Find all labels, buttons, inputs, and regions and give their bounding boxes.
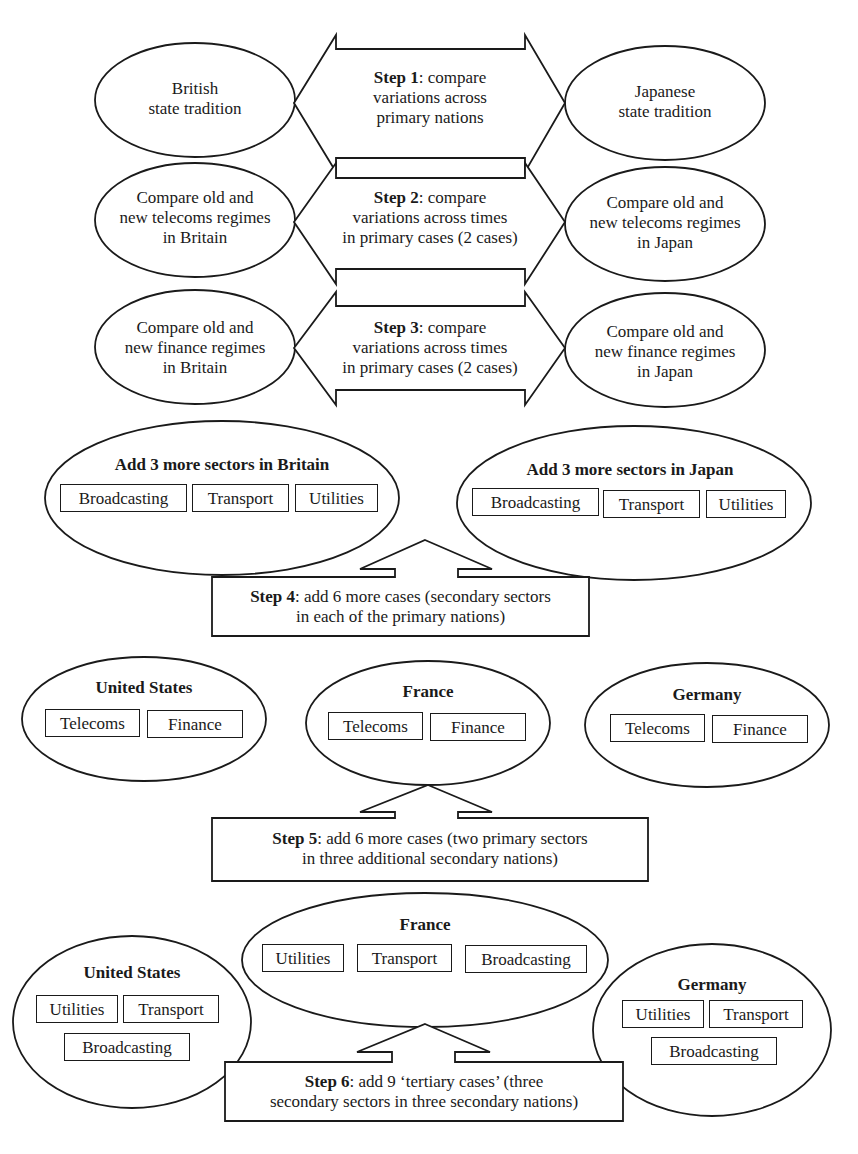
step-text: in each of the primary nations) [212,607,589,627]
label-line: Japanese [570,82,760,102]
step-text: in primary cases (2 cases) [315,228,545,248]
sector-box-us-transport: Transport [123,995,219,1023]
label-line: in Japan [565,362,765,382]
step-number: Step 3 [374,318,419,337]
britain-sectors-title: Add 3 more sectors in Britain [72,455,372,475]
step-number: Step 4 [250,587,295,606]
step-3-label: Step 3: compare variations across times … [315,318,545,378]
step-text: variations across [330,88,530,108]
step-text: : compare [419,68,487,87]
step-4-label: Step 4: add 6 more cases (secondary sect… [212,587,589,627]
sector-box-britain-utilities: Utilities [295,484,378,512]
sector-box-japan-broadcasting: Broadcasting [472,488,599,516]
telecoms-japan-label: Compare old and new telecoms regimes in … [565,193,765,253]
label-line: new telecoms regimes [565,213,765,233]
step-text: : add 6 more cases (two primary sectors [317,829,588,848]
step-text: : compare [419,188,487,207]
label-line: new finance regimes [95,338,295,358]
sector-box-france-utilities: Utilities [262,944,344,972]
germany-primary-title: Germany [607,685,807,705]
label-line: Compare old and [95,318,295,338]
label-line: state tradition [570,102,760,122]
step-1-line-1: Step 1: compare [330,68,530,88]
step-number: Step 1 [374,68,419,87]
step-6-line-1: Step 6: add 9 ‘tertiary cases’ (three [225,1072,623,1092]
british-state-label: British state tradition [100,79,290,119]
step-1-label: Step 1: compare variations across primar… [330,68,530,128]
step-number: Step 2 [374,188,419,207]
label-line: British [100,79,290,99]
telecoms-britain-label: Compare old and new telecoms regimes in … [95,188,295,248]
step-2-line-1: Step 2: compare [315,188,545,208]
france-primary-title: France [328,682,528,702]
ellipse-germany-secondary [593,944,831,1116]
step-4-line-1: Step 4: add 6 more cases (secondary sect… [212,587,589,607]
step-6-label: Step 6: add 9 ‘tertiary cases’ (three se… [225,1072,623,1112]
step-text: variations across times [315,338,545,358]
step-text: : add 6 more cases (secondary sectors [295,587,551,606]
step-3-line-1: Step 3: compare [315,318,545,338]
sector-box-germany-broadcasting: Broadcasting [651,1037,777,1065]
label-line: Compare old and [95,188,295,208]
step-text: primary nations [330,108,530,128]
finance-japan-label: Compare old and new finance regimes in J… [565,322,765,382]
label-line: in Japan [565,233,765,253]
label-line: Compare old and [565,193,765,213]
label-line: new telecoms regimes [95,208,295,228]
label-line: new finance regimes [565,342,765,362]
step-text: variations across times [315,208,545,228]
comparative-research-design-diagram: British state tradition Step 1: compare … [0,0,858,1154]
us-secondary-title: United States [32,963,232,983]
sector-box-us-finance: Finance [147,710,243,738]
france-secondary-title: France [325,915,525,935]
japanese-state-label: Japanese state tradition [570,82,760,122]
sector-box-us-utilities: Utilities [36,995,118,1023]
sector-box-us-broadcasting: Broadcasting [64,1033,190,1061]
finance-britain-label: Compare old and new finance regimes in B… [95,318,295,378]
label-line: in Britain [95,228,295,248]
step-5-label: Step 5: add 6 more cases (two primary se… [212,829,648,869]
sector-box-germany-telecoms: Telecoms [610,714,705,742]
sector-box-germany-finance: Finance [712,715,808,743]
step-2-label: Step 2: compare variations across times … [315,188,545,248]
sector-box-britain-broadcasting: Broadcasting [60,484,187,512]
step-5-line-1: Step 5: add 6 more cases (two primary se… [212,829,648,849]
step-text: in three additional secondary nations) [212,849,648,869]
sector-box-france-telecoms: Telecoms [328,712,423,740]
sector-box-us-telecoms: Telecoms [45,709,140,737]
us-primary-title: United States [44,678,244,698]
step-number: Step 5 [272,829,317,848]
germany-secondary-title: Germany [612,975,812,995]
sector-box-germany-transport: Transport [709,1000,803,1028]
sector-box-france-broadcasting: Broadcasting [465,945,587,973]
step-text: : add 9 ‘tertiary cases’ (three [350,1072,544,1091]
step-text: in primary cases (2 cases) [315,358,545,378]
sector-box-japan-transport: Transport [603,490,700,518]
sector-box-germany-utilities: Utilities [622,1000,704,1028]
sector-box-france-finance: Finance [430,713,526,741]
sector-box-france-transport: Transport [357,944,452,972]
label-line: in Britain [95,358,295,378]
step-text: : compare [419,318,487,337]
japan-sectors-title: Add 3 more sectors in Japan [490,460,770,480]
label-line: state tradition [100,99,290,119]
step-number: Step 6 [305,1072,350,1091]
sector-box-britain-transport: Transport [192,484,289,512]
step-text: secondary sectors in three secondary nat… [225,1092,623,1112]
label-line: Compare old and [565,322,765,342]
sector-box-japan-utilities: Utilities [706,490,786,518]
